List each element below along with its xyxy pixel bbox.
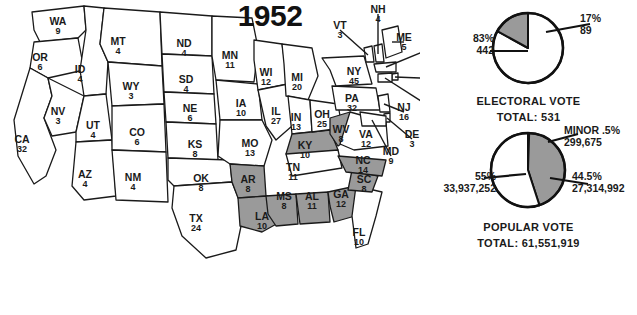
state-tx[interactable] xyxy=(172,182,244,258)
electoral-map-panel: WA9OR6CA32ID4NV3UT4AZ4MT4WY3CO6NM4ND4SD4… xyxy=(0,0,420,315)
state-votes-id: 4 xyxy=(77,74,82,84)
state-votes-va: 12 xyxy=(361,139,371,149)
state-nh[interactable] xyxy=(374,44,384,62)
state-label-me: ME xyxy=(396,31,412,43)
state-label-wa: WA xyxy=(50,15,67,27)
state-votes-wa: 9 xyxy=(55,26,60,36)
popular-vote-caption: POPULAR VOTE xyxy=(420,220,637,235)
state-label-sd: SD xyxy=(179,73,194,85)
popular-minor-percent: MINOR .5% xyxy=(564,124,637,136)
electoral-vote-block: 83% 442 17% 89 ELECTORAL VOTE TOTAL: 531 xyxy=(420,6,637,125)
state-vt[interactable] xyxy=(364,46,374,62)
electoral-democratic-percent: 17% xyxy=(580,12,636,24)
state-label-ne: NE xyxy=(183,102,198,114)
popular-minor-value: 299,675 xyxy=(564,136,637,148)
state-votes-nh: 4 xyxy=(375,14,380,24)
popular-vote-total: TOTAL: 61,551,919 xyxy=(420,236,637,251)
electoral-vote-caption: ELECTORAL VOTE xyxy=(420,94,637,109)
page-title: 1952 xyxy=(215,0,325,33)
state-votes-de: 3 xyxy=(409,139,414,149)
state-votes-in: 13 xyxy=(291,122,301,132)
state-votes-wv: 8 xyxy=(338,134,343,144)
state-label-ga: GA xyxy=(333,188,349,200)
state-label-nv: NV xyxy=(51,105,66,117)
popular-republican-percent: 55% xyxy=(414,170,496,182)
electoral-republican-percent: 83% xyxy=(422,32,494,44)
popular-vote-pie: MINOR .5% 299,675 44.5% 27,314,992 55% 3… xyxy=(420,126,637,218)
electoral-democratic-value: 89 xyxy=(580,24,636,36)
state-votes-nv: 3 xyxy=(55,116,60,126)
state-label-id: ID xyxy=(75,63,86,75)
state-votes-or: 6 xyxy=(37,62,42,72)
state-votes-ok: 8 xyxy=(198,183,203,193)
state-label-nj: NJ xyxy=(397,101,411,113)
state-votes-mt: 4 xyxy=(115,46,120,56)
state-label-ms: MS xyxy=(276,190,292,202)
state-votes-vt: 3 xyxy=(337,30,342,40)
state-label-tx: TX xyxy=(189,212,202,224)
electoral-vote-total: TOTAL: 531 xyxy=(420,110,637,125)
electoral-republican-label: 83% 442 xyxy=(422,32,494,56)
popular-minor-label: MINOR .5% 299,675 xyxy=(564,124,637,148)
us-map-graphic: WA9OR6CA32ID4NV3UT4AZ4MT4WY3CO6NM4ND4SD4… xyxy=(0,0,420,315)
state-label-ca: CA xyxy=(14,133,30,145)
popular-democratic-label: 44.5% 27,314,992 xyxy=(572,170,637,194)
state-label-oh: OH xyxy=(314,108,330,120)
state-label-nc: NC xyxy=(355,154,371,166)
state-label-fl: FL xyxy=(353,226,366,238)
state-votes-wi: 12 xyxy=(261,77,271,87)
state-label-ia: IA xyxy=(236,97,247,109)
state-label-nd: ND xyxy=(176,37,192,49)
state-votes-co: 6 xyxy=(134,137,139,147)
state-votes-ky: 10 xyxy=(300,150,310,160)
state-label-wy: WY xyxy=(123,80,140,92)
state-label-ok: OK xyxy=(193,172,209,184)
popular-republican-value: 33,937,252 xyxy=(414,182,496,194)
state-label-tn: TN xyxy=(286,161,300,173)
state-votes-ny: 45 xyxy=(349,76,359,86)
state-md[interactable] xyxy=(360,112,386,126)
state-label-mt: MT xyxy=(110,35,126,47)
state-votes-ks: 8 xyxy=(192,149,197,159)
statistics-panel: 83% 442 17% 89 ELECTORAL VOTE TOTAL: 531… xyxy=(420,0,637,315)
state-votes-wy: 3 xyxy=(128,91,133,101)
state-label-al: AL xyxy=(305,190,320,202)
state-label-ky: KY xyxy=(298,139,313,151)
state-votes-la: 10 xyxy=(257,221,267,231)
state-mt[interactable] xyxy=(100,8,162,66)
state-label-ut: UT xyxy=(86,119,101,131)
state-votes-md: 9 xyxy=(388,156,393,166)
state-votes-mn: 11 xyxy=(225,60,235,70)
electoral-democratic-label: 17% 89 xyxy=(580,12,636,36)
state-votes-oh: 25 xyxy=(317,119,327,129)
state-nj[interactable] xyxy=(378,94,390,112)
state-label-md: MD xyxy=(383,145,400,157)
state-votes-me: 5 xyxy=(401,42,406,52)
electoral-republican-value: 442 xyxy=(422,44,494,56)
state-votes-nm: 4 xyxy=(130,182,135,192)
state-votes-al: 11 xyxy=(307,201,317,211)
popular-republican-label: 55% 33,937,252 xyxy=(414,170,496,194)
state-label-in: IN xyxy=(291,111,302,123)
state-votes-nj: 16 xyxy=(399,112,409,122)
state-label-ar: AR xyxy=(240,173,256,185)
popular-democratic-percent: 44.5% xyxy=(572,170,637,182)
state-label-de: DE xyxy=(405,128,420,140)
state-label-nh: NH xyxy=(370,3,385,15)
state-votes-pa: 32 xyxy=(347,103,357,113)
state-votes-ca: 32 xyxy=(17,144,27,154)
state-votes-ms: 8 xyxy=(281,201,286,211)
state-label-ks: KS xyxy=(188,138,203,150)
state-votes-mo: 13 xyxy=(245,148,255,158)
popular-vote-block: MINOR .5% 299,675 44.5% 27,314,992 55% 3… xyxy=(420,126,637,251)
state-votes-ia: 10 xyxy=(236,108,246,118)
state-votes-mi: 20 xyxy=(292,82,302,92)
state-label-nm: NM xyxy=(125,171,142,183)
state-label-mi: MI xyxy=(291,71,303,83)
state-votes-ne: 6 xyxy=(187,113,192,123)
state-votes-ga: 12 xyxy=(336,199,346,209)
state-votes-tn: 11 xyxy=(288,172,298,182)
state-votes-nc: 14 xyxy=(358,165,368,175)
state-label-pa: PA xyxy=(345,92,359,104)
state-label-va: VA xyxy=(359,128,373,140)
